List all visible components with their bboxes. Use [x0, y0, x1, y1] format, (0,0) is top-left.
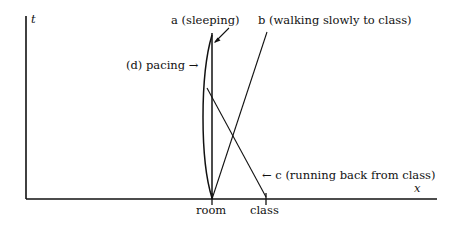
label-worldline-d: (d) pacing →	[126, 60, 198, 72]
diagram-canvas	[0, 0, 460, 236]
label-worldline-c: ← c (running back from class)	[262, 170, 435, 182]
worldline-c-running	[207, 88, 266, 197]
worldline-d-pacing	[203, 35, 212, 198]
t-axis-label: t	[31, 14, 36, 26]
worldline-diagram: t x a (sleeping) b (walking slowly to cl…	[0, 0, 460, 236]
tick-label-class: class	[250, 205, 279, 217]
label-worldline-a: a (sleeping)	[171, 15, 239, 27]
worldline-b-walking	[212, 32, 267, 199]
a-label-leader-arrow-icon	[214, 28, 229, 43]
tick-label-room: room	[196, 205, 226, 217]
label-worldline-b: b (walking slowly to class)	[258, 15, 412, 27]
x-axis-label: x	[414, 183, 421, 195]
